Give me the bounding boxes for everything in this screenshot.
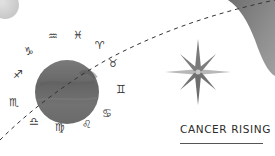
caption-underline <box>180 143 263 144</box>
pisces-icon: ♓ <box>73 30 83 41</box>
orbit-dashed-line <box>0 0 275 140</box>
moon-icon <box>0 0 19 19</box>
aquarius-icon: ♒ <box>48 31 58 42</box>
aries-icon: ♈ <box>95 40 105 51</box>
compass-star-icon <box>165 39 231 105</box>
leo-icon: ♌ <box>82 119 92 130</box>
nebula-blob <box>228 0 275 76</box>
sagittarius-icon: ♐ <box>13 69 23 80</box>
scorpio-icon: ♏ <box>9 97 19 108</box>
cancer-icon: ♋ <box>102 108 112 119</box>
taurus-icon: ♉ <box>108 58 118 69</box>
gemini-icon: ♊ <box>116 84 126 95</box>
libra-icon: ♎ <box>29 116 39 127</box>
caption-title: CANCER RISING <box>180 123 271 135</box>
virgo-icon: ♍ <box>55 122 65 133</box>
capricorn-icon: ♑ <box>24 46 34 57</box>
